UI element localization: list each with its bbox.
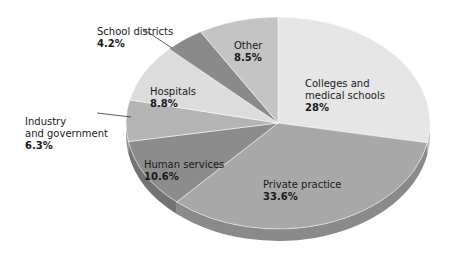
label-name: Human services [144,159,224,170]
label-other: Other 8.5% [234,28,262,76]
label-name: Industry and government [25,116,108,139]
label-colleges: Colleges and medical schools 28% [305,66,385,126]
label-percent: 8.5% [234,52,262,64]
label-name: Colleges and medical schools [305,78,385,101]
label-name: Hospitals [150,86,196,97]
label-percent: 8.8% [150,98,196,110]
label-name: Other [234,40,262,51]
label-percent: 6.3% [25,140,108,152]
label-name: Private practice [263,179,341,190]
label-industry-government: Industry and government 6.3% [25,104,108,164]
label-human-services: Human services 10.6% [144,147,224,195]
label-percent: 28% [305,102,385,114]
label-private-practice: Private practice 33.6% [263,167,341,215]
label-name: School districts [97,26,173,37]
label-percent: 33.6% [263,191,341,203]
label-hospitals: Hospitals 8.8% [150,74,196,122]
label-percent: 10.6% [144,171,224,183]
label-school-districts: School districts 4.2% [97,14,173,62]
label-percent: 4.2% [97,38,173,50]
